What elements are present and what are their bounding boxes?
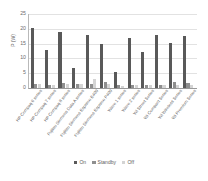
bar-group: [57, 14, 71, 88]
bar-group: [126, 14, 140, 88]
bar-group: [167, 14, 181, 88]
bars-layer: [28, 14, 196, 88]
y-tick-label: 5: [23, 71, 26, 76]
legend-label: Off: [127, 160, 134, 165]
bar-on: [58, 32, 61, 88]
legend-swatch-icon: [74, 161, 78, 165]
legend-item[interactable]: Off: [122, 160, 134, 165]
bar-group: [29, 14, 43, 88]
legend-label: On: [79, 160, 86, 165]
legend-item[interactable]: Standby: [92, 160, 116, 165]
bar-off: [66, 84, 69, 88]
bar-group: [84, 14, 98, 88]
chart-legend: OnStandbyOff: [0, 160, 208, 165]
bar-group: [98, 14, 112, 88]
bar-chart: P (W) 0510152025 HP Compaq 6 seriesHP Co…: [0, 0, 208, 181]
legend-item[interactable]: On: [74, 160, 86, 165]
bar-on: [31, 28, 34, 88]
legend-swatch-icon: [122, 161, 126, 165]
legend-swatch-icon: [92, 161, 96, 165]
y-tick-label: 20: [20, 26, 26, 31]
y-tick-label: 10: [20, 56, 26, 61]
bar-on: [183, 36, 186, 88]
bar-group: [112, 14, 126, 88]
bar-group: [153, 14, 167, 88]
x-axis-labels: HP Compaq 6 seriesHP Compaq 7 seriesHP C…: [28, 89, 196, 151]
y-tick-label: 15: [20, 41, 26, 46]
bar-group: [43, 14, 57, 88]
bar-on: [155, 35, 158, 88]
bar-off: [93, 79, 96, 88]
bar-on: [86, 35, 89, 88]
bar-on: [45, 50, 48, 88]
bar-group: [70, 14, 84, 88]
bar-group: [140, 14, 154, 88]
y-tick-label: 0: [23, 85, 26, 90]
y-tick-label: 25: [20, 11, 26, 16]
legend-label: Standby: [98, 160, 116, 165]
bar-group: [181, 14, 195, 88]
y-axis-tick-labels: 0510152025: [14, 14, 26, 88]
bar-on: [141, 52, 144, 88]
bar-on: [128, 38, 131, 88]
